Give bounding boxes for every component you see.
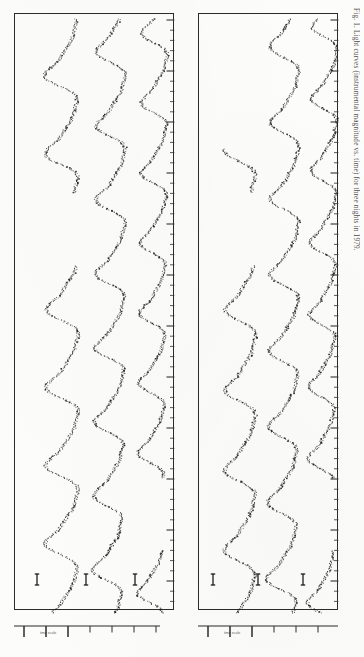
time-axis: time scale — [198, 620, 338, 650]
light-curve-trace — [265, 19, 301, 614]
right-axis-ticks — [167, 20, 175, 601]
axis-scale-label: time scale — [224, 631, 240, 635]
axis-scale-label: time scale — [40, 631, 56, 635]
light-curve-trace — [43, 19, 80, 614]
figure-caption: Fig. 1. Light curves (instrumental magni… — [352, 8, 360, 251]
light-curve-trace — [91, 19, 128, 614]
panel-plot-area — [199, 14, 339, 611]
left-panel — [14, 13, 174, 610]
error-bar-marker — [211, 574, 215, 585]
error-bar-marker — [35, 574, 39, 585]
light-curve-trace — [222, 149, 258, 614]
right-panel — [198, 13, 338, 610]
error-bar-marker — [133, 574, 137, 585]
time-axis: time scale — [14, 620, 160, 650]
panel-plot-area — [15, 14, 175, 611]
light-curve-trace — [136, 18, 169, 613]
right-axis-ticks — [331, 20, 339, 601]
error-bar-marker — [84, 574, 88, 585]
error-bar-marker — [301, 574, 305, 585]
